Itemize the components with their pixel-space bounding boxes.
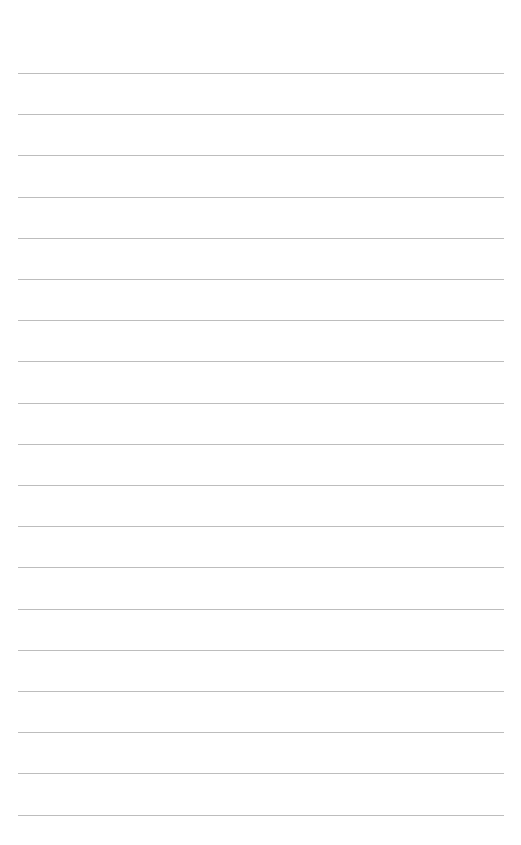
ruled-line [18, 609, 504, 610]
ruled-line [18, 361, 504, 362]
ruled-line [18, 73, 504, 74]
ruled-line [18, 155, 504, 156]
ruled-line [18, 567, 504, 568]
ruled-line [18, 815, 504, 816]
ruled-line [18, 320, 504, 321]
ruled-line [18, 238, 504, 239]
ruled-line [18, 197, 504, 198]
lined-page [0, 0, 521, 845]
ruled-line [18, 444, 504, 445]
ruled-line [18, 526, 504, 527]
ruled-line [18, 732, 504, 733]
ruled-line [18, 773, 504, 774]
ruled-line [18, 691, 504, 692]
ruled-line [18, 485, 504, 486]
ruled-line [18, 650, 504, 651]
ruled-line [18, 279, 504, 280]
ruled-line [18, 114, 504, 115]
ruled-line [18, 403, 504, 404]
